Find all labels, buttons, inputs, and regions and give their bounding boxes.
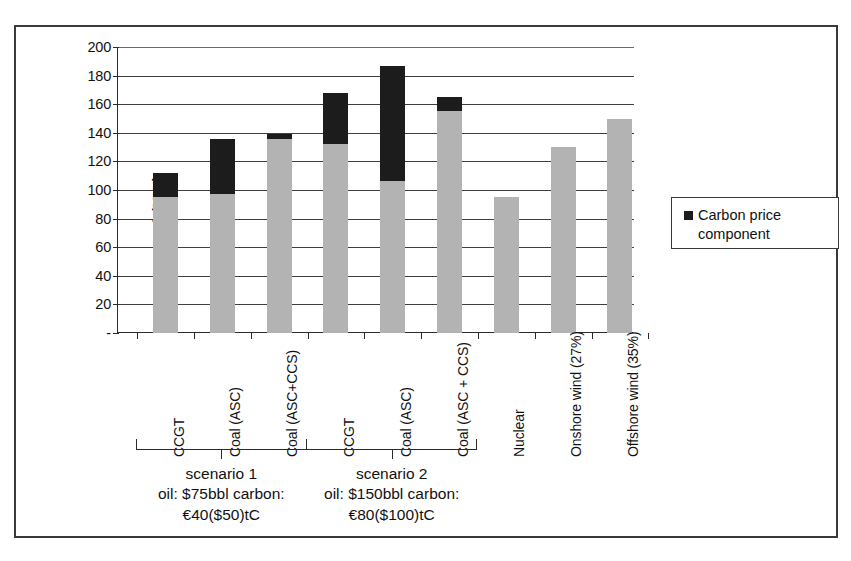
bar-segment-carbon-price[interactable] (323, 93, 348, 144)
bar-segment-carbon-price[interactable] (153, 173, 178, 197)
x-axis-tick-mark (648, 333, 649, 339)
y-axis-tick-mark (113, 333, 119, 334)
legend: Carbon price component (671, 197, 839, 249)
scenario-bracket-stem (392, 450, 393, 459)
x-axis-category-label: Offshore wind (35%) (625, 332, 641, 457)
bar-segment-base-cost[interactable] (153, 197, 178, 333)
legend-swatch-carbon-price (684, 211, 693, 220)
bar-segment-base-cost[interactable] (494, 197, 519, 333)
y-axis-tick-label: 20 (65, 296, 111, 312)
chart-figure: $ /MWh 20018016014012010080604020- CCGTC… (14, 25, 838, 538)
y-axis-tick-label: 100 (65, 182, 111, 198)
bar-group[interactable] (267, 47, 292, 333)
bar-segment-base-cost[interactable] (267, 139, 292, 333)
bar-group[interactable] (437, 47, 462, 333)
y-axis-tick-label: 80 (65, 211, 111, 227)
y-axis-tick-label: 140 (65, 125, 111, 141)
bar-group[interactable] (323, 47, 348, 333)
bar-group[interactable] (494, 47, 519, 333)
bar-segment-base-cost[interactable] (551, 147, 576, 333)
bar-group[interactable] (380, 47, 405, 333)
y-axis-tick-labels: 20018016014012010080604020- (63, 47, 111, 333)
x-axis-category-label: CCGT (171, 418, 187, 457)
bar-segment-base-cost[interactable] (380, 181, 405, 333)
scenario-caption: scenario 2oil: $150bbl carbon:€80($100)t… (266, 464, 517, 525)
x-axis-category-label: Nuclear (511, 409, 527, 457)
bar-group[interactable] (551, 47, 576, 333)
legend-label: Carbon price component (698, 206, 818, 243)
bar-segment-base-cost[interactable] (607, 119, 632, 334)
bar-segment-carbon-price[interactable] (267, 134, 292, 138)
y-axis-tick-label: 160 (65, 96, 111, 112)
y-axis-tick-label: 120 (65, 153, 111, 169)
x-axis-category-label: Onshore wind (27%) (568, 331, 584, 457)
bar-segment-carbon-price[interactable] (380, 66, 405, 182)
plot-area: $ /MWh 20018016014012010080604020- (117, 47, 633, 358)
x-axis-category-label: CCGT (341, 418, 357, 457)
bar-group[interactable] (153, 47, 178, 333)
plot-frame (117, 47, 633, 333)
y-axis-tick-label: 200 (65, 39, 111, 55)
bar-segment-carbon-price[interactable] (437, 97, 462, 111)
scenario-bracket-stem (221, 450, 222, 459)
bars-layer (118, 47, 634, 333)
scenario-bracket (136, 439, 307, 450)
y-axis-tick-label: - (65, 325, 111, 341)
bar-group[interactable] (607, 47, 632, 333)
bar-segment-carbon-price[interactable] (210, 139, 235, 195)
y-axis-tick-label: 40 (65, 268, 111, 284)
y-axis-tick-label: 60 (65, 239, 111, 255)
scenario-bracket (306, 439, 477, 450)
bar-segment-base-cost[interactable] (323, 144, 348, 333)
bar-group[interactable] (210, 47, 235, 333)
scenario-caption-line-3: €80($100)tC (266, 505, 517, 525)
scenario-caption-line-2: oil: $150bbl carbon: (266, 484, 517, 504)
bar-segment-base-cost[interactable] (210, 194, 235, 333)
bar-segment-base-cost[interactable] (437, 111, 462, 333)
scenario-caption-line-1: scenario 2 (266, 464, 517, 484)
y-axis-tick-label: 180 (65, 68, 111, 84)
